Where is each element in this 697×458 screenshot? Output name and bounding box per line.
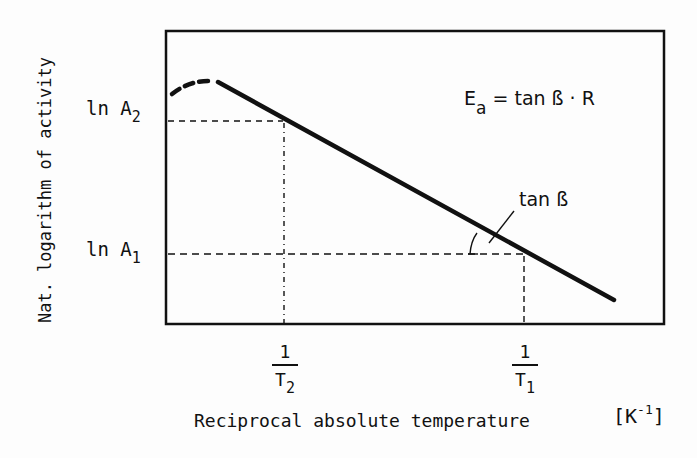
tick-inv-T1: 1 T1 [508, 343, 542, 389]
eq-E: E [464, 87, 476, 109]
deviation-curve [172, 81, 211, 94]
arrhenius-plot [0, 0, 697, 458]
tick-lnA2-sub: 2 [132, 108, 141, 126]
beta-angle-arc [470, 233, 477, 254]
y-axis-label: Nat. logarithm of activity [35, 45, 55, 335]
tick-lnA2-text: ln A [86, 97, 132, 119]
t2-den-sub: 2 [286, 379, 295, 397]
tick-lnA2: ln A2 [86, 97, 141, 119]
tick-inv-T2: 1 T2 [268, 343, 302, 389]
unit-exp: -1 [637, 402, 653, 417]
tanb-label: tan ß [519, 188, 568, 210]
plot-frame [166, 31, 664, 324]
unit-base: K [625, 404, 637, 428]
t1-num: 1 [508, 343, 542, 364]
tick-lnA1: ln A1 [86, 238, 141, 260]
x-axis-label: Reciprocal absolute temperature [194, 410, 530, 431]
t1-den-text: T [515, 369, 526, 390]
t1-den: T1 [508, 366, 542, 389]
t2-den-text: T [275, 369, 286, 390]
tick-lnA1-text: ln A [86, 238, 132, 260]
t2-num: 1 [268, 343, 302, 364]
tick-lnA1-sub: 1 [132, 249, 141, 267]
eq-rest: = tan ß · R [486, 87, 594, 109]
t1-den-sub: 1 [526, 379, 535, 397]
activation-energy-equation: Ea = tan ß · R [464, 87, 595, 109]
eq-sub: a [476, 98, 486, 118]
x-axis-unit: [K-1] [613, 404, 665, 428]
t2-den: T2 [268, 366, 302, 389]
